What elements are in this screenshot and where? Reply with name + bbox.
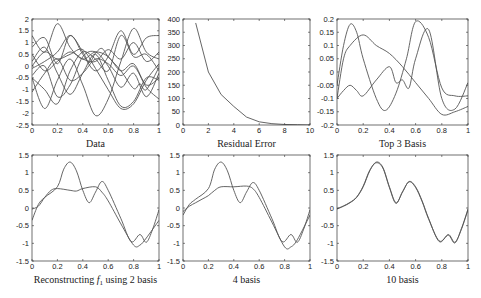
x-tick-label: 0 xyxy=(335,262,339,271)
figure: 00.20.40.60.81-2.5-2-1.5-1-0.500.511.52D… xyxy=(0,0,481,298)
y-tick-label: 200 xyxy=(167,68,180,77)
y-tick-label: -0.1 xyxy=(321,94,334,103)
x-tick-label: 0.6 xyxy=(254,262,264,271)
subplot-10-basis: 00.20.40.60.81-1.5-1-0.500.511.510 basis xyxy=(321,151,470,285)
y-tick-label: 0 xyxy=(176,121,180,130)
x-tick-label: 0.2 xyxy=(358,262,368,271)
x-tick-label: 0.8 xyxy=(437,126,447,135)
y-tick-label: -1.5 xyxy=(167,257,180,266)
y-tick-label: 1 xyxy=(25,38,29,47)
y-tick-label: 0 xyxy=(330,204,334,213)
x-tick-label: 2 xyxy=(206,126,210,135)
series-original xyxy=(337,162,468,242)
x-tick-label: 1 xyxy=(157,262,161,271)
y-tick-label: 0.05 xyxy=(319,54,334,63)
x-tick-label: 10 xyxy=(306,126,314,135)
y-tick-label: 0.5 xyxy=(19,186,29,195)
x-tick-label: 0.6 xyxy=(103,126,113,135)
y-tick-label: 0 xyxy=(25,204,29,213)
y-tick-label: -0.2 xyxy=(321,121,334,130)
x-tick-label: 1 xyxy=(466,262,470,271)
y-tick-label: 0.5 xyxy=(324,186,334,195)
x-axis-label: Data xyxy=(86,138,105,149)
subplot-data: 00.20.40.60.81-2.5-2-1.5-1-0.500.511.52D… xyxy=(16,15,161,149)
axes-frame xyxy=(32,19,159,125)
series-f3 xyxy=(32,28,159,116)
x-tick-label: 1 xyxy=(308,262,312,271)
x-tick-label: 0 xyxy=(30,126,34,135)
y-tick-label: 0 xyxy=(176,204,180,213)
x-tick-label: 4 xyxy=(232,126,236,135)
x-tick-label: 6 xyxy=(257,126,261,135)
x-tick-label: 0 xyxy=(30,262,34,271)
y-tick-label: 150 xyxy=(167,81,180,90)
series-residual xyxy=(196,23,310,125)
y-tick-label: -1.5 xyxy=(321,257,334,266)
y-tick-label: 100 xyxy=(167,94,180,103)
y-tick-label: 1.5 xyxy=(324,151,334,160)
y-tick-label: 350 xyxy=(167,28,180,37)
series-basis3 xyxy=(337,29,468,111)
x-tick-label: 0.2 xyxy=(358,126,368,135)
x-axis-label: 4 basis xyxy=(233,274,261,285)
x-tick-label: 0.4 xyxy=(384,262,394,271)
y-tick-label: -1 xyxy=(173,239,180,248)
x-tick-label: 0.8 xyxy=(128,126,138,135)
subplot-residual-error: 0246810050100150200250300350400Residual … xyxy=(167,15,314,149)
x-tick-label: 0.6 xyxy=(410,126,420,135)
y-tick-label: -1.5 xyxy=(16,97,29,106)
y-tick-label: -1 xyxy=(327,239,334,248)
y-tick-label: 2 xyxy=(25,15,29,24)
y-tick-label: 0.5 xyxy=(19,50,29,59)
axes-frame xyxy=(183,19,310,125)
x-tick-label: 0.6 xyxy=(410,262,420,271)
x-axis-label: Top 3 Basis xyxy=(379,138,426,149)
series-original xyxy=(32,162,159,242)
x-axis-label: 10 basis xyxy=(386,274,419,285)
x-tick-label: 1 xyxy=(466,126,470,135)
series-reconstruction xyxy=(32,187,159,247)
y-tick-label: -0.15 xyxy=(317,107,334,116)
plot-area xyxy=(183,162,310,249)
y-tick-label: 1 xyxy=(330,168,334,177)
y-tick-label: -2.5 xyxy=(16,121,29,130)
plot-area xyxy=(337,162,468,243)
y-tick-label: 0.15 xyxy=(319,28,334,37)
x-tick-label: 0.2 xyxy=(203,262,213,271)
subplot-reconstruct-2-basis: 00.20.40.60.81-1.5-1-0.500.511.5Reconstr… xyxy=(16,151,161,287)
y-tick-label: 0.2 xyxy=(324,15,334,24)
series-original xyxy=(183,162,310,242)
x-tick-label: 0.8 xyxy=(128,262,138,271)
y-tick-label: -0.5 xyxy=(321,221,334,230)
y-tick-label: -1 xyxy=(22,85,29,94)
x-tick-label: 8 xyxy=(283,126,287,135)
y-tick-label: -0.5 xyxy=(16,221,29,230)
x-tick-label: 0.6 xyxy=(103,262,113,271)
plot-area xyxy=(196,23,310,125)
y-tick-label: -0.5 xyxy=(16,73,29,82)
x-tick-label: 0.4 xyxy=(229,262,239,271)
y-tick-label: 0 xyxy=(330,68,334,77)
x-tick-label: 0.8 xyxy=(437,262,447,271)
y-tick-label: 1.5 xyxy=(19,151,29,160)
x-tick-label: 0 xyxy=(335,126,339,135)
y-tick-label: 300 xyxy=(167,41,180,50)
y-tick-label: 1.5 xyxy=(19,26,29,35)
x-tick-label: 0.2 xyxy=(52,262,62,271)
y-tick-label: -1.5 xyxy=(16,257,29,266)
y-tick-label: 400 xyxy=(167,15,180,24)
x-tick-label: 0.8 xyxy=(279,262,289,271)
x-tick-label: 0.4 xyxy=(78,126,88,135)
subplot-top-3-basis: 00.20.40.60.81-0.2-0.15-0.1-0.0500.050.1… xyxy=(317,15,470,149)
x-tick-label: 0 xyxy=(181,262,185,271)
x-axis-label: Reconstructing f1 using 2 basis xyxy=(34,274,158,287)
axes-frame xyxy=(183,155,310,261)
x-tick-label: 1 xyxy=(157,126,161,135)
y-tick-label: -1 xyxy=(22,239,29,248)
y-tick-label: 250 xyxy=(167,54,180,63)
x-tick-label: 0.4 xyxy=(384,126,394,135)
y-tick-label: 1 xyxy=(176,168,180,177)
x-tick-label: 0.2 xyxy=(52,126,62,135)
series-basis2 xyxy=(337,21,468,111)
series-reconstruction xyxy=(337,163,468,243)
